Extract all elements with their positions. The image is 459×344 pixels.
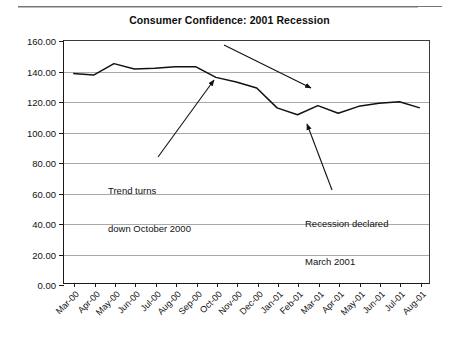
y-axis-label: 100.00 bbox=[27, 127, 56, 138]
annotation-trend-turns: Trend turns down October 2000 bbox=[108, 160, 191, 260]
y-axis-label: 20.00 bbox=[32, 249, 56, 260]
y-axis-tick bbox=[59, 285, 64, 286]
page-top-rule bbox=[18, 6, 442, 7]
y-axis-tick bbox=[59, 133, 64, 134]
y-axis-label: 120.00 bbox=[27, 97, 56, 108]
x-axis-tick bbox=[176, 283, 177, 287]
x-axis-tick bbox=[217, 283, 218, 287]
gridline bbox=[64, 72, 429, 73]
gridline bbox=[64, 133, 429, 134]
x-axis-tick bbox=[237, 283, 238, 287]
y-axis-label: 0.00 bbox=[38, 280, 57, 291]
x-axis-tick bbox=[298, 283, 299, 287]
y-axis-tick bbox=[59, 255, 64, 256]
y-axis-tick bbox=[59, 224, 64, 225]
y-axis-label: 40.00 bbox=[32, 219, 56, 230]
y-axis-tick bbox=[59, 163, 64, 164]
y-axis-label: 80.00 bbox=[32, 158, 56, 169]
y-axis-tick bbox=[59, 41, 64, 42]
y-axis-label: 60.00 bbox=[32, 188, 56, 199]
y-axis-label: 140.00 bbox=[27, 66, 56, 77]
x-axis-tick bbox=[135, 283, 136, 287]
y-axis-tick bbox=[59, 72, 64, 73]
x-axis-tick bbox=[197, 283, 198, 287]
annotation-recession-line2: March 2001 bbox=[305, 256, 388, 269]
annotation-trend-line1: Trend turns bbox=[108, 185, 191, 198]
x-axis-tick bbox=[156, 283, 157, 287]
x-axis-tick bbox=[421, 283, 422, 287]
chart-page: Consumer Confidence: 2001 Recession 0.00… bbox=[0, 0, 459, 344]
y-axis-tick bbox=[59, 102, 64, 103]
x-axis-tick bbox=[258, 283, 259, 287]
annotation-recession-line1: Recession declared bbox=[305, 218, 388, 231]
chart-title: Consumer Confidence: 2001 Recession bbox=[0, 14, 459, 26]
annotation-trend-line2: down October 2000 bbox=[108, 223, 191, 236]
x-axis-label: Mar-00 bbox=[54, 289, 81, 316]
y-axis-tick bbox=[59, 194, 64, 195]
y-axis-label: 160.00 bbox=[27, 36, 56, 47]
x-axis-tick bbox=[278, 283, 279, 287]
x-axis-tick bbox=[95, 283, 96, 287]
x-axis-tick bbox=[74, 283, 75, 287]
annotation-recession-declared: Recession declared March 2001 bbox=[305, 193, 388, 293]
gridline bbox=[64, 102, 429, 103]
x-axis-tick bbox=[400, 283, 401, 287]
x-axis-tick bbox=[115, 283, 116, 287]
